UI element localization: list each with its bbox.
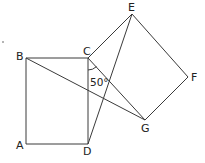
stray-dot <box>2 41 4 43</box>
label-g: G <box>141 122 150 135</box>
angle-label: 50° <box>90 76 109 88</box>
label-a: A <box>16 139 24 152</box>
angle-arc-dcg <box>88 67 97 70</box>
label-e: E <box>128 1 135 14</box>
label-d: D <box>83 145 91 158</box>
label-c: C <box>83 45 91 58</box>
square-cefg <box>88 14 188 120</box>
geometry-diagram: B C E F G A D 50° <box>0 0 205 163</box>
square-abcd <box>26 58 88 144</box>
segment-bg <box>26 58 145 120</box>
label-f: F <box>191 71 197 84</box>
label-b: B <box>16 50 24 63</box>
